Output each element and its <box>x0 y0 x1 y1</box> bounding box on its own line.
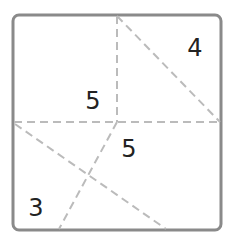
diagonal-top-right-line <box>117 16 220 122</box>
region-label-top-right: 4 <box>187 34 202 62</box>
region-label-middle-right: 5 <box>121 135 136 163</box>
partitioned-square-diagram: 4 5 5 3 <box>0 0 231 250</box>
slant-lower-line <box>59 122 117 229</box>
region-label-bottom-left: 3 <box>28 194 43 222</box>
region-label-top-left: 5 <box>85 87 100 115</box>
